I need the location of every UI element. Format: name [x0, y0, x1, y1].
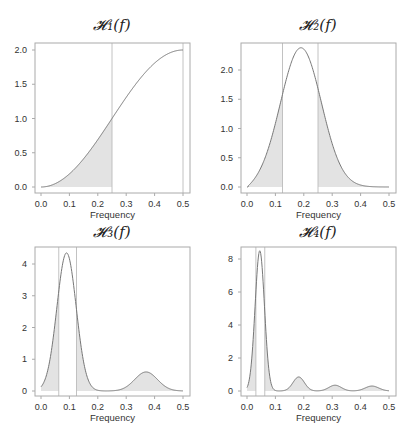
panel-title: 𝓗₁(f)	[93, 16, 130, 34]
panel-1: 𝓗₁(f)0.00.10.20.30.40.50.00.51.01.52.0Fr…	[14, 16, 190, 220]
shaded-region	[265, 311, 389, 391]
x-tick-label: 0.1	[63, 402, 76, 412]
x-tick-label: 0.5	[177, 402, 190, 412]
y-tick-label: 2.0	[14, 45, 27, 55]
panel-2: 𝓗₂(f)0.00.10.20.30.40.50.00.51.01.52.0Fr…	[220, 16, 396, 220]
x-axis-label: Frequency	[90, 412, 135, 423]
x-tick-label: 0.0	[35, 402, 48, 412]
x-tick-label: 0.4	[354, 402, 367, 412]
y-tick-label: 3	[22, 291, 27, 301]
x-tick-label: 0.0	[35, 199, 48, 209]
x-tick-label: 0.0	[241, 199, 254, 209]
x-tick-label: 0.2	[92, 402, 105, 412]
x-tick-label: 0.2	[298, 402, 311, 412]
y-tick-label: 1.0	[220, 124, 233, 134]
x-axis-label: Frequency	[296, 412, 341, 423]
chart-figure: 𝓗₁(f)0.00.10.20.30.40.50.00.51.01.52.0Fr…	[0, 0, 412, 436]
y-tick-label: 2	[22, 323, 27, 333]
panel-title: 𝓗₄(f)	[299, 223, 336, 241]
shaded-region	[41, 119, 112, 188]
panel-title: 𝓗₃(f)	[93, 223, 130, 241]
panel-title: 𝓗₂(f)	[299, 16, 336, 34]
x-tick-label: 0.0	[241, 402, 254, 412]
y-tick-label: 0	[22, 386, 27, 396]
y-tick-label: 0.5	[220, 153, 233, 163]
x-tick-label: 0.1	[269, 199, 282, 209]
y-tick-label: 2	[228, 353, 233, 363]
x-axis-label: Frequency	[90, 209, 135, 220]
x-tick-label: 0.4	[148, 199, 161, 209]
y-tick-label: 1.5	[220, 94, 233, 104]
x-tick-label: 0.5	[177, 199, 190, 209]
y-tick-label: 8	[228, 254, 233, 264]
y-tick-label: 1	[22, 354, 27, 364]
x-axis-label: Frequency	[296, 209, 341, 220]
x-tick-label: 0.4	[148, 402, 161, 412]
shaded-region	[247, 94, 283, 187]
figure: 𝓗₁(f)0.00.10.20.30.40.50.00.51.01.52.0Fr…	[0, 0, 412, 436]
x-tick-label: 0.3	[120, 402, 133, 412]
y-tick-label: 1.0	[14, 114, 27, 124]
panel-3: 𝓗₃(f)0.00.10.20.30.40.501234Frequency	[22, 223, 190, 423]
x-tick-label: 0.4	[354, 199, 367, 209]
x-tick-label: 0.3	[120, 199, 133, 209]
shaded-region	[77, 310, 184, 391]
y-tick-label: 0.0	[14, 182, 27, 192]
y-tick-label: 0.5	[14, 148, 27, 158]
y-tick-label: 0.0	[220, 182, 233, 192]
y-tick-label: 4	[228, 320, 233, 330]
y-tick-label: 6	[228, 287, 233, 297]
x-tick-label: 0.1	[63, 199, 76, 209]
y-tick-label: 0	[228, 386, 233, 396]
shaded-region	[247, 292, 256, 391]
y-tick-label: 2.0	[220, 65, 233, 75]
y-tick-label: 4	[22, 259, 27, 269]
panel-4: 𝓗₄(f)0.00.10.20.30.40.502468Frequency	[228, 223, 396, 423]
shaded-region	[41, 291, 59, 391]
plot-frame	[241, 247, 396, 396]
shaded-region	[318, 89, 389, 187]
y-tick-label: 1.5	[14, 79, 27, 89]
x-tick-label: 0.2	[92, 199, 105, 209]
x-tick-label: 0.3	[326, 402, 339, 412]
x-tick-label: 0.3	[326, 199, 339, 209]
x-tick-label: 0.5	[383, 199, 396, 209]
x-tick-label: 0.2	[298, 199, 311, 209]
x-tick-label: 0.1	[269, 402, 282, 412]
gain-curve	[41, 253, 183, 391]
x-tick-label: 0.5	[383, 402, 396, 412]
